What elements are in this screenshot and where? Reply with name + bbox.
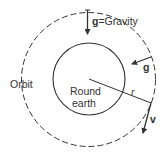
velocity-label: v	[150, 113, 156, 125]
earth-label-line1: Round	[70, 85, 101, 97]
orbit-diagram: g=Gravity g Orbit Round earth r v	[0, 0, 166, 159]
earth-label-line2: earth	[72, 97, 96, 109]
gravity-label: g=Gravity	[92, 15, 139, 27]
orbit-circle	[22, 13, 156, 147]
orbit-label: Orbit	[10, 78, 33, 90]
g-vector-label: g	[143, 61, 149, 73]
